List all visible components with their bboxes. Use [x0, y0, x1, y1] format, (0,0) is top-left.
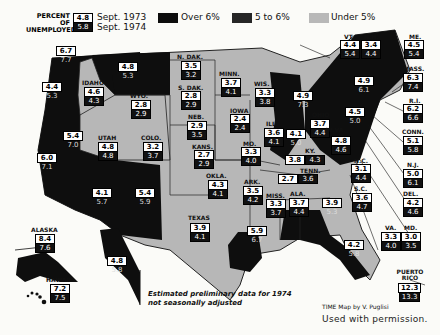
state-wy-label: WYO. [130, 92, 148, 99]
state-ut-values: 4.8 4.8 [98, 142, 118, 161]
tx-1974: 4.1 [190, 233, 210, 242]
la-1973: 5.9 [247, 226, 267, 236]
pr-1973: 12.3 [398, 283, 421, 293]
state-ct-label: CONN. [402, 128, 424, 135]
ok-1974: 4.1 [208, 190, 228, 199]
me-1974: 5.4 [404, 50, 424, 59]
wy-1974: 2.9 [131, 110, 151, 119]
state-ct-values: 5.1 5.8 [403, 136, 423, 155]
state-fl-values: 4.2 5.8 [344, 240, 364, 258]
mo-1973: 3.3 [241, 147, 261, 157]
state-tx-label: TEXAS [188, 214, 210, 221]
state-or-values: 4.4 5.3 [42, 82, 62, 100]
map-credit: TIME Map by V. Puglisi [322, 303, 389, 310]
tx-1973: 3.9 [190, 223, 210, 233]
state-ok-values: 4.3 4.1 [208, 180, 228, 199]
state-ma-values: 6.3 7.4 [403, 73, 423, 92]
nv-1973: 5.4 [63, 131, 83, 141]
baja-values: 4.8 5.8 [107, 256, 127, 274]
pa-1974: 5.0 [346, 117, 364, 125]
al-1974: 4.4 [289, 208, 309, 217]
state-nd-label: N. DAK. [177, 53, 203, 60]
ar-1973: 3.5 [243, 186, 263, 196]
state-nj-values: 5.0 6.1 [403, 169, 423, 188]
state-ks-label: KANS. [192, 143, 213, 150]
ca-1974: 7.1 [38, 163, 56, 171]
wi-1973: 3.3 [255, 88, 275, 98]
ms-1973: 3.3 [266, 199, 286, 209]
nc-1973: 3.1 [351, 164, 371, 174]
ia-1974: 2.4 [230, 124, 250, 133]
state-ar-values: 3.5 4.2 [243, 186, 263, 205]
ma-1974: 7.4 [403, 83, 423, 92]
state-va-label: VA. [385, 224, 396, 231]
state-pr-label: PUERTO RICO [395, 269, 425, 281]
state-wv-label: W.VA. [326, 126, 346, 133]
tn-1974: 3.6 [298, 174, 318, 184]
legend-title: PERCENT OF UNEMPLOYED [26, 13, 70, 34]
ct-1974: 5.8 [403, 146, 423, 155]
state-tn-label: TENN. [300, 167, 321, 174]
state-ma-label: MASS. [403, 65, 424, 72]
legend-swatch-5-to-6 [232, 13, 252, 23]
ak-1974: 7.6 [35, 244, 55, 253]
or-1973: 4.4 [42, 82, 62, 92]
legend-label-under-5: Under 5% [331, 12, 375, 22]
sd-1973: 2.8 [181, 91, 201, 101]
state-al-label: ALA. [290, 190, 306, 197]
footnote-line2: not seasonally adjusted [148, 299, 292, 308]
state-mt-values: 4.8 5.3 [118, 62, 138, 80]
wy-1973: 2.8 [131, 100, 151, 110]
mi-1973: 4.9 [293, 91, 313, 101]
sc-1974: 4.7 [352, 203, 372, 212]
state-nh-values: 3.4 4.4 [361, 40, 381, 59]
nc-1974: 4.4 [351, 174, 371, 183]
pa-1973: 4.5 [345, 107, 365, 117]
nd-1974: 3.2 [181, 71, 201, 80]
az-1973: 4.1 [92, 188, 112, 198]
id-1973: 4.6 [84, 87, 104, 97]
ky-1973: 3.8 [285, 155, 305, 165]
state-oh-label: OHIO [312, 111, 329, 118]
state-sd-label: S. DAK. [178, 84, 203, 91]
state-md-label: MD. [404, 224, 417, 231]
state-me-label: ME. [409, 33, 421, 40]
nm-1974: 5.9 [136, 198, 154, 206]
hawaii-shape [27, 292, 47, 305]
nh-1974: 4.4 [361, 50, 381, 59]
state-ak-values: 8.4 7.6 [35, 234, 55, 253]
me-1973: 4.5 [404, 40, 424, 50]
ak-1973: 8.4 [35, 234, 55, 244]
tn-1973: 2.7 [278, 174, 298, 184]
state-nc-values: 3.1 4.4 [351, 164, 371, 183]
state-co-label: COLO. [141, 134, 161, 141]
nd-1973: 3.5 [181, 61, 201, 71]
nj-1974: 6.1 [403, 179, 423, 188]
state-co-values: 3.2 3.7 [143, 142, 163, 161]
or-1974: 5.3 [43, 92, 61, 100]
state-ak-label: ALASKA [31, 226, 58, 233]
ri-1974: 6.6 [403, 114, 423, 123]
nv-1974: 7.0 [64, 141, 82, 149]
legend-sample-1973: 4.8 [73, 13, 93, 23]
ca-1973: 6.0 [37, 153, 57, 163]
mi-1974: 7.3 [294, 101, 312, 109]
state-la-values: 5.9 6.7 [247, 226, 267, 244]
state-ia-values: 2.4 2.4 [230, 114, 250, 133]
state-wy-values: 2.8 2.9 [131, 100, 151, 119]
state-al-values: 3.7 4.4 [289, 198, 309, 217]
hi-1974: 7.5 [50, 294, 70, 303]
state-mn-values: 3.7 4.1 [221, 78, 241, 97]
hi-1973: 7.2 [50, 284, 70, 294]
state-id-values: 4.6 4.3 [84, 87, 104, 106]
state-ga-values: 3.9 5.3 [322, 198, 342, 216]
state-ri-label: R.I. [409, 97, 421, 104]
fl-1973: 4.2 [344, 240, 364, 250]
state-pr-values: 12.3 13.3 [398, 283, 421, 302]
state-ia-label: IOWA [230, 107, 248, 114]
legend-year-1974: Sept. 1974 [97, 22, 146, 32]
state-sc-values: 3.6 4.7 [352, 193, 372, 212]
state-mo-values: 3.3 4.0 [241, 147, 261, 166]
wa-1974: 7.7 [57, 56, 75, 64]
de-1974: 4.6 [403, 208, 423, 217]
